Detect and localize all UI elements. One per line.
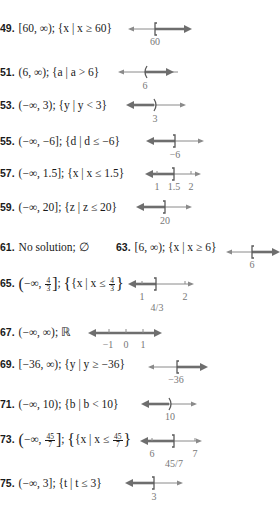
answer-71: 71.(−∞, 10); {b | b < 10}	[0, 397, 119, 411]
svg-text:45/7: 45/7	[165, 458, 183, 469]
svg-text:1: 1	[140, 291, 145, 302]
problem-number: 57.	[0, 167, 15, 179]
svg-text:1.5: 1.5	[168, 181, 181, 192]
set-notation: {y | y ≥ −36}	[64, 358, 125, 370]
number-line-53: 3	[126, 94, 196, 122]
number-line-55: −6	[146, 130, 216, 158]
svg-text:20: 20	[160, 215, 170, 226]
problem-number: 73.	[0, 433, 15, 445]
svg-text:6: 6	[150, 448, 155, 459]
answer-61: 61.No solution; ∅	[0, 240, 89, 254]
svg-text:−6: −6	[170, 149, 181, 160]
problem-number: 59.	[0, 201, 15, 213]
fraction: 43	[109, 277, 115, 292]
number-line-75: 3	[125, 472, 195, 500]
set-notation: {t | t ≤ 3}	[59, 477, 102, 489]
svg-text:3: 3	[153, 113, 158, 124]
interval-notation: (−∞, 3)	[19, 99, 53, 111]
answer-49: 49.[60, ∞); {x | x ≥ 60}	[0, 21, 112, 35]
number-line-69: −36	[148, 356, 218, 384]
set-notation: {d | d ≤ −6}	[65, 135, 120, 147]
set-notation: {b | b < 10}	[64, 398, 118, 410]
set-notation: {x | x ≥ 60}	[58, 22, 112, 34]
svg-text:6: 6	[250, 259, 255, 270]
svg-text:3: 3	[152, 491, 157, 502]
problem-number: 63.	[116, 241, 131, 253]
svg-text:1: 1	[155, 181, 160, 192]
number-line-49: 60	[128, 18, 198, 46]
svg-text:0: 0	[124, 339, 129, 350]
svg-text:6: 6	[143, 80, 148, 91]
number-line-67: −1 0 1	[88, 322, 168, 350]
svg-text:10: 10	[165, 411, 175, 422]
interval-notation: [60, ∞)	[19, 22, 52, 34]
svg-text:2: 2	[183, 291, 188, 302]
answer-57: 57.(−∞, 1.5]; {x | x ≤ 1.5}	[0, 166, 124, 180]
interval-notation: (−∞, 10)	[19, 398, 59, 410]
problem-number: 49.	[0, 22, 15, 34]
answer-63: 63.[6, ∞); {x | x ≥ 6}	[116, 240, 216, 254]
svg-text:1: 1	[141, 339, 146, 350]
answer-73: 73.(−∞, 457]; {{x | x ≤ 457}	[0, 432, 131, 448]
set-notation: {x | x ≥ 6}	[168, 241, 216, 253]
problem-number: 51.	[0, 66, 15, 78]
set-notation: {a | a > 6}	[52, 66, 99, 78]
number-line-57: 1 1.5 2	[145, 163, 215, 191]
number-line-65: 1 4/3 2	[128, 273, 198, 313]
number-line-71: 10	[141, 393, 211, 421]
fraction: 457	[113, 433, 123, 448]
answer-51: 51.(6, ∞); {a | a > 6}	[0, 65, 99, 79]
interval-notation: (−∞, 3]	[19, 477, 53, 489]
problem-number: 67.	[0, 326, 15, 338]
problem-number: 61.	[0, 241, 15, 253]
interval-notation: [6, ∞)	[135, 241, 162, 253]
tick-label: 60	[150, 36, 160, 47]
svg-text:7: 7	[193, 448, 198, 459]
answer-text: No solution; ∅	[19, 241, 89, 253]
interval-notation: (−∞, ∞); ℝ	[19, 326, 71, 338]
problem-number: 53.	[0, 99, 15, 111]
answer-59: 59.(−∞, 20]; {z | z ≤ 20}	[0, 200, 117, 214]
interval-notation: (−∞, 1.5]	[19, 167, 61, 179]
answer-53: 53.(−∞, 3); {y | y < 3}	[0, 98, 107, 112]
interval-notation: (6, ∞)	[19, 66, 46, 78]
problem-number: 69.	[0, 358, 15, 370]
interval-notation: [−36, ∞)	[19, 358, 59, 370]
answer-65: 65.(−∞, 43]; {{x | x ≤ 43}	[0, 276, 124, 292]
number-line-51: 6	[118, 61, 188, 89]
number-line-63: 6	[226, 241, 280, 269]
set-notation: {y | y < 3}	[59, 99, 108, 111]
answer-67: 67.(−∞, ∞); ℝ	[0, 325, 71, 339]
answer-69: 69.[−36, ∞); {y | y ≥ −36}	[0, 357, 125, 371]
svg-text:2: 2	[189, 181, 194, 192]
number-line-59: 20	[136, 196, 206, 224]
svg-text:−1: −1	[103, 339, 114, 350]
svg-text:−36: −36	[168, 374, 184, 385]
interval-notation: (−∞, −6]	[19, 135, 59, 147]
answer-55: 55.(−∞, −6]; {d | d ≤ −6}	[0, 134, 120, 148]
problem-number: 55.	[0, 135, 15, 147]
problem-number: 75.	[0, 477, 15, 489]
svg-text:4/3: 4/3	[151, 302, 164, 313]
number-line-73: 6 45/7 7	[140, 430, 210, 472]
problem-number: 65.	[0, 277, 15, 289]
answer-75: 75.(−∞, 3]; {t | t ≤ 3}	[0, 476, 102, 490]
set-notation: {z | z ≤ 20}	[64, 201, 117, 213]
interval-notation: (−∞, 20]	[19, 201, 59, 213]
fraction: 43	[45, 277, 51, 292]
problem-number: 71.	[0, 398, 15, 410]
fraction: 457	[45, 433, 55, 448]
set-notation: {x | x ≤ 1.5}	[67, 167, 124, 179]
